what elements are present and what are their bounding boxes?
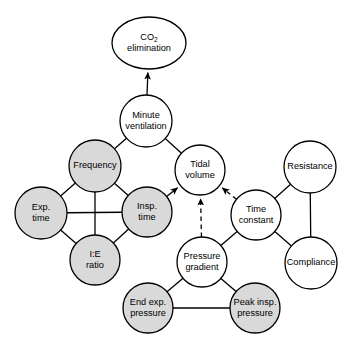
node-compliance[interactable]: Compliance [285, 237, 337, 289]
edge-pressure_gradient-to-end_exp_pressure [167, 278, 183, 292]
flow-diagram: CO2eliminationMinuteventilationFrequency… [0, 0, 352, 349]
edge-time_constant-to-resistance [275, 184, 291, 198]
node-insp_time[interactable]: Insp.time [122, 187, 172, 237]
edge-pressure_gradient-to-peak_insp_pressure [221, 278, 236, 291]
edge-time_constant-to-tidal_volume [222, 188, 236, 199]
edge-pressure_gradient-to-tidal_volume [201, 198, 202, 237]
edge-tidal_volume-to-minute_ventilation [165, 138, 181, 153]
edge-frequency-to-exp_time [61, 183, 76, 196]
node-label-pressure_gradient: Pressuregradient [184, 251, 221, 272]
edge-frequency-to-minute_ventilation [115, 138, 127, 149]
node-end_exp_pressure[interactable]: End exp.pressure [123, 283, 173, 333]
node-frequency[interactable]: Frequency [69, 140, 121, 192]
node-pressure_gradient[interactable]: Pressuregradient [177, 237, 227, 287]
node-tidal_volume[interactable]: Tidalvolume [175, 145, 225, 195]
node-resistance[interactable]: Resistance [284, 141, 336, 193]
node-label-compliance: Compliance [287, 257, 336, 267]
node-ie_ratio[interactable]: I:Eratio [70, 235, 120, 285]
edge-frequency-to-insp_time [114, 183, 128, 195]
node-label-frequency: Frequency [73, 160, 117, 170]
edge-time_constant-to-compliance [275, 231, 292, 245]
edge-minute_ventilation-to-co2 [147, 72, 148, 95]
node-co2[interactable]: CO2elimination [112, 17, 186, 69]
edge-time_constant-to-pressure_gradient [221, 231, 237, 245]
node-minute_ventilation[interactable]: Minuteventilation [120, 95, 172, 147]
edge-exp_time-to-insp_time [67, 212, 122, 213]
diagram-canvas: CO2eliminationMinuteventilationFrequency… [0, 0, 352, 349]
node-label-peak_insp_pressure: Peak insp.pressure [234, 297, 277, 318]
node-exp_time[interactable]: Exp.time [15, 187, 67, 239]
node-label-end_exp_pressure: End exp.pressure [130, 297, 166, 318]
node-time_constant[interactable]: Timeconstant [231, 190, 281, 240]
edge-exp_time-to-ie_ratio [61, 230, 77, 244]
node-layer: CO2eliminationMinuteventilationFrequency… [15, 17, 337, 333]
node-label-exp_time: Exp.time [32, 202, 50, 223]
node-peak_insp_pressure[interactable]: Peak insp.pressure [230, 283, 280, 333]
edge-insp_time-to-tidal_volume [167, 188, 178, 197]
node-label-resistance: Resistance [287, 161, 332, 171]
node-label-insp_time: Insp.time [137, 201, 157, 222]
edge-insp_time-to-ie_ratio [113, 229, 128, 243]
